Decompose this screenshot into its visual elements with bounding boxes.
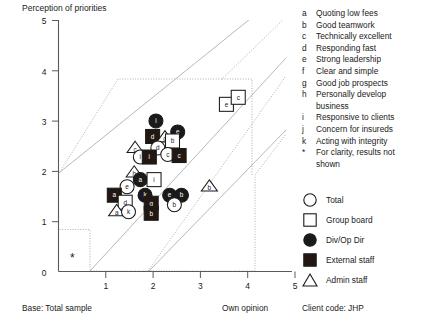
legend-item-b: b Good teamwork bbox=[302, 20, 437, 32]
legend-key-b: b bbox=[302, 20, 316, 32]
legend-text-d: Responding fast bbox=[316, 43, 376, 55]
y-tick-0: 0 bbox=[42, 268, 47, 278]
legend-text-b: Good teamwork bbox=[316, 20, 375, 32]
legend-item-i: i Responsive to clients bbox=[302, 112, 437, 124]
base-note: Base: Total sample bbox=[22, 303, 92, 313]
data-point-label: b bbox=[208, 184, 212, 191]
legend-key-e: e bbox=[302, 54, 316, 66]
legend-letter-key: a Quoting low fees b Good teamwork c Tec… bbox=[302, 8, 437, 170]
x-tick-2: 2 bbox=[151, 281, 156, 291]
legend-text-k: Acting with integrity bbox=[316, 136, 387, 148]
data-point: i bbox=[147, 173, 161, 187]
legend-item-g: g Good job prospects bbox=[302, 78, 437, 90]
data-point-label: i bbox=[140, 153, 141, 160]
legend-item-d: d Responding fast bbox=[302, 43, 437, 55]
legend-item-j: j Concern for insureds bbox=[302, 124, 437, 136]
data-point: e bbox=[120, 180, 134, 194]
y-tick-2: 2 bbox=[42, 167, 47, 177]
x-axis-title: Own opinion bbox=[222, 303, 268, 313]
x-tick-4: 4 bbox=[245, 281, 250, 291]
x-tick-1: 1 bbox=[103, 281, 108, 291]
legend-key-j: j bbox=[302, 124, 316, 136]
legend-key-h: h bbox=[302, 89, 316, 101]
legend-text-f: Clear and simple bbox=[316, 66, 378, 78]
x-axis-tick-labels: 1 2 3 4 5 bbox=[103, 281, 297, 291]
y-axis-tick-labels: 5 4 3 2 1 0 bbox=[42, 16, 47, 278]
legend-symbol-label-external-staff: External staff bbox=[326, 255, 374, 265]
legend-symbol-total: Total bbox=[302, 190, 437, 210]
circle-filled-icon bbox=[302, 232, 324, 248]
data-point-label: b bbox=[149, 210, 153, 217]
data-point-label: b bbox=[171, 137, 175, 144]
legend-key-c: c bbox=[302, 31, 316, 43]
legend-symbol-label-total: Total bbox=[326, 195, 344, 205]
data-point: i bbox=[142, 150, 156, 164]
legend-text-e: Strong leadership bbox=[316, 54, 381, 66]
chart-page: Perception of priorities bbox=[0, 0, 437, 323]
client-code: Client code: JHP bbox=[302, 303, 364, 313]
data-point: c bbox=[172, 149, 186, 163]
legend-key-i: i bbox=[302, 112, 316, 124]
x-tick-5: 5 bbox=[293, 281, 298, 291]
legend-key-k: k bbox=[302, 136, 316, 148]
legend-text-asterisk: For clarity, results not bbox=[316, 147, 395, 159]
legend-item-a: a Quoting low fees bbox=[302, 8, 437, 20]
triangle-open-icon bbox=[302, 272, 324, 288]
legend-item-c: c Technically excellent bbox=[302, 31, 437, 43]
data-point-label: a bbox=[113, 191, 117, 198]
y-tick-1: 1 bbox=[42, 217, 47, 227]
legend-text-asterisk-continued: shown bbox=[316, 159, 437, 171]
legend-symbol-key: Total Group board Div/Op Dir External st… bbox=[302, 190, 437, 290]
data-point-label: i bbox=[153, 176, 154, 183]
x-tick-3: 3 bbox=[198, 281, 203, 291]
data-point: a bbox=[133, 173, 147, 187]
square-filled-icon bbox=[302, 252, 324, 268]
y-tick-5: 5 bbox=[42, 16, 47, 26]
legend-item-f: f Clear and simple bbox=[302, 66, 437, 78]
data-point-label: e bbox=[168, 191, 172, 198]
legend-text-h-continued: business bbox=[316, 101, 437, 113]
data-point-label: b bbox=[173, 201, 177, 208]
legend-symbol-label-group-board: Group board bbox=[326, 215, 373, 225]
legend-key-a: a bbox=[302, 8, 316, 20]
legend-key-f: f bbox=[302, 66, 316, 78]
data-point-label: i bbox=[149, 153, 150, 160]
legend-item-k: k Acting with integrity bbox=[302, 136, 437, 148]
legend-symbol-group-board: Group board bbox=[302, 210, 437, 230]
legend-symbol-external-staff: External staff bbox=[302, 250, 437, 270]
legend-text-c: Technically excellent bbox=[316, 31, 392, 43]
y-tick-3: 3 bbox=[42, 117, 47, 127]
data-point: b bbox=[201, 180, 217, 192]
square-open-icon bbox=[302, 212, 324, 228]
circle-open-icon bbox=[302, 192, 324, 208]
legend-item-h: h Personally develop bbox=[302, 89, 437, 101]
legend-symbol-admin-staff: Admin staff bbox=[302, 270, 437, 290]
data-point-label: d bbox=[151, 133, 155, 140]
data-point-label: a bbox=[139, 176, 143, 183]
data-point-label: b bbox=[180, 191, 184, 198]
legend-text-i: Responsive to clients bbox=[316, 112, 394, 124]
data-point: i bbox=[149, 114, 163, 128]
legend-item-asterisk: * For clarity, results not bbox=[302, 147, 437, 159]
y-tick-4: 4 bbox=[42, 67, 47, 77]
legend-symbol-label-div-op-dir: Div/Op Dir bbox=[326, 235, 364, 245]
legend-item-e: e Strong leadership bbox=[302, 54, 437, 66]
legend-key-g: g bbox=[302, 78, 316, 90]
data-point: b bbox=[144, 206, 158, 220]
data-point: b bbox=[165, 134, 179, 148]
data-point: c bbox=[231, 90, 245, 104]
data-point-label: i bbox=[155, 117, 156, 124]
data-point-label: e bbox=[125, 183, 129, 190]
data-point: b bbox=[167, 198, 181, 212]
legend-key-asterisk: * bbox=[302, 147, 316, 159]
data-point: k bbox=[122, 205, 136, 219]
legend-symbol-div-op-dir: Div/Op Dir bbox=[302, 230, 437, 250]
data-point-label: e bbox=[225, 101, 229, 108]
legend-text-g: Good job prospects bbox=[316, 78, 388, 90]
data-markers: ieddbcdcciihaibeakebdgbakbec bbox=[107, 90, 245, 220]
legend-symbol-label-admin-staff: Admin staff bbox=[326, 275, 367, 285]
legend-text-h: Personally develop bbox=[316, 89, 386, 101]
data-point-label: a bbox=[115, 209, 119, 216]
legend-text-a: Quoting low fees bbox=[316, 8, 378, 20]
legend-key-d: d bbox=[302, 43, 316, 55]
